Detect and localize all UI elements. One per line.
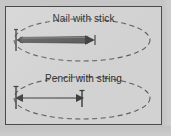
figure-root: Nail with stick xyxy=(0,0,171,136)
panel-nail-with-stick: Nail with stick xyxy=(6,7,161,67)
caption-pencil-with-string: Pencil with string xyxy=(6,73,161,84)
illustration-frame: Nail with stick xyxy=(5,6,162,125)
panel-pencil-with-string: Pencil with string xyxy=(6,67,161,125)
paper-edge-bottom xyxy=(0,126,171,136)
paper-edge-right xyxy=(162,0,171,136)
caption-nail-with-stick: Nail with stick xyxy=(6,13,161,24)
